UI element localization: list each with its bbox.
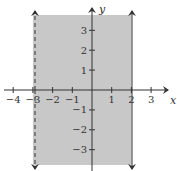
x-tick-label: −2: [45, 94, 60, 105]
y-tick-label: 2: [81, 45, 87, 56]
x-tick-label: 2: [128, 94, 134, 105]
x-tick-label: −3: [26, 94, 41, 105]
y-tick-label: −1: [72, 104, 87, 115]
y-tick-label: −2: [72, 124, 87, 135]
x-tick-label: −1: [65, 94, 80, 105]
x-tick-label: 1: [109, 94, 115, 105]
x-tick-label: 3: [148, 94, 154, 105]
y-tick-label: −3: [72, 144, 87, 155]
y-tick-label: 1: [81, 65, 87, 76]
y-tick-label: 3: [81, 25, 87, 36]
inequality-graph: −4−3−2−1123 −3−2−1123 x y: [0, 0, 177, 171]
x-axis-label: x: [170, 94, 177, 107]
y-axis-label: y: [98, 3, 106, 16]
x-tick-label: −4: [6, 94, 21, 105]
